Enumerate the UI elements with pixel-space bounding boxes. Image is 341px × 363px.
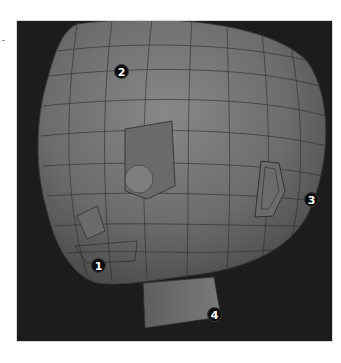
head-mesh-figure: 1 2 3 4: [16, 20, 333, 342]
callout-badge-1: 1: [91, 258, 106, 273]
callout-badge-4: 4: [207, 307, 222, 322]
margin-mark: [2, 40, 5, 41]
head-mesh-render: [17, 21, 333, 342]
callout-badge-2: 2: [114, 64, 129, 79]
callout-badge-3: 3: [304, 192, 319, 207]
